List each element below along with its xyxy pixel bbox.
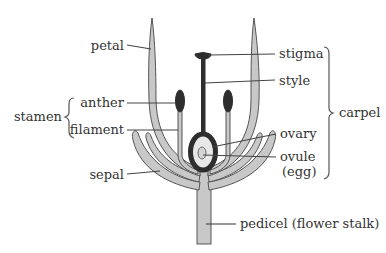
stigma-leader-line: [208, 54, 275, 55]
carpel-brace: [324, 47, 333, 179]
petal-label: petal: [91, 38, 124, 53]
flower-diagram: petal anther filament stamen sepal stigm…: [0, 0, 386, 253]
anther-label: anther: [80, 95, 124, 110]
anther-left-shape: [176, 90, 185, 112]
stigma-shape: [195, 53, 211, 60]
stigma-label: stigma: [279, 46, 324, 61]
carpel-label: carpel: [339, 105, 380, 120]
style-leader-line: [205, 80, 275, 83]
egg-label: (egg): [282, 164, 316, 179]
anther-right-shape: [224, 90, 233, 112]
stamen-label: stamen: [14, 109, 63, 124]
ovule-label: ovule: [280, 149, 316, 164]
sepal-label: sepal: [89, 167, 124, 182]
style-label: style: [279, 73, 310, 88]
filament-label: filament: [70, 122, 125, 137]
petal-leader-line: [127, 45, 151, 49]
ovule-shape: [198, 147, 206, 159]
ovary-label: ovary: [280, 126, 317, 141]
style-shape: [202, 55, 206, 135]
pedicel-label: pedicel (flower stalk): [240, 216, 379, 231]
